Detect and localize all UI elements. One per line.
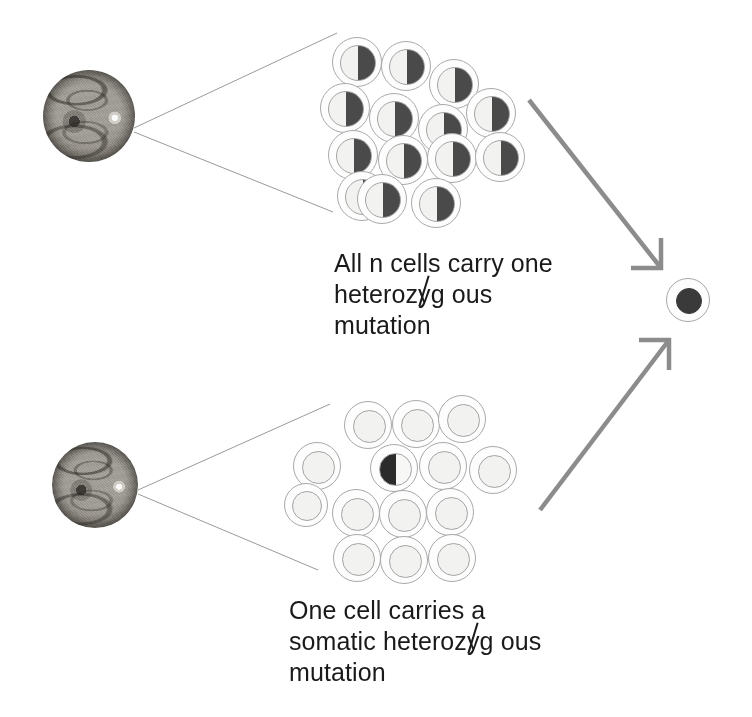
nucleus	[340, 45, 376, 81]
nucleus	[388, 499, 421, 532]
cell-wild-type	[426, 488, 474, 536]
nucleus	[365, 182, 401, 218]
nucleus	[483, 140, 519, 176]
nucleus	[302, 451, 335, 484]
cell-wild-type	[392, 400, 440, 448]
cell-heterozygous	[370, 444, 418, 492]
nucleus	[437, 543, 470, 576]
nucleus	[389, 49, 425, 85]
cell-wild-type	[344, 401, 392, 449]
nucleus	[342, 543, 375, 576]
cell-heterozygous	[357, 174, 407, 224]
nucleus	[377, 101, 413, 137]
cell-heterozygous	[381, 41, 431, 91]
cell-wild-type	[333, 534, 381, 582]
nucleus	[437, 67, 473, 103]
nucleus	[389, 545, 422, 578]
homozygous-tumour-cell	[666, 278, 710, 322]
cell-heterozygous	[320, 83, 370, 133]
cell-wild-type	[284, 483, 328, 527]
nucleus	[428, 451, 461, 484]
cell-wild-type	[379, 490, 427, 538]
retina-fundus-photograph-germline	[43, 70, 135, 162]
caption-line: heterozyg ous	[334, 279, 553, 310]
cell-wild-type	[438, 395, 486, 443]
caption-line: All n cells carry one	[334, 248, 553, 279]
nucleus	[292, 491, 322, 521]
cell-heterozygous	[475, 132, 525, 182]
somatic-caption: One cell carries asomatic heterozyg ousm…	[289, 595, 541, 688]
cell-wild-type	[419, 442, 467, 490]
cell-heterozygous	[411, 178, 461, 228]
nucleus	[328, 91, 364, 127]
struck-glyph: y	[467, 626, 480, 657]
nucleus	[386, 143, 422, 179]
caption-line: One cell carries a	[289, 595, 541, 626]
cell-wild-type	[380, 536, 428, 584]
arrow-head	[639, 340, 669, 370]
nucleus	[435, 497, 468, 530]
leader-line	[134, 132, 333, 212]
nucleus	[401, 409, 434, 442]
leader-line	[134, 33, 337, 128]
cell-heterozygous	[332, 37, 382, 87]
nucleus	[478, 455, 511, 488]
nucleus	[435, 141, 471, 177]
arrow-head	[631, 238, 661, 268]
cell-heterozygous	[427, 133, 477, 183]
arrow-shaft	[540, 340, 669, 510]
caption-line: mutation	[334, 310, 553, 341]
germline-caption: All n cells carry oneheterozyg ousmutati…	[334, 248, 553, 341]
nucleus	[353, 410, 386, 443]
caption-line: somatic heterozyg ous	[289, 626, 541, 657]
cell-wild-type	[332, 489, 380, 537]
arrow-shaft	[529, 100, 661, 268]
struck-glyph: y	[418, 279, 431, 310]
retina-fundus-photograph-somatic	[52, 442, 138, 528]
nucleus	[447, 404, 480, 437]
cell-wild-type	[469, 446, 517, 494]
caption-line: mutation	[289, 657, 541, 688]
nucleus	[379, 453, 412, 486]
nucleus	[419, 186, 455, 222]
nucleus	[474, 96, 510, 132]
nucleus	[676, 288, 702, 314]
nucleus	[336, 138, 372, 174]
nucleus	[341, 498, 374, 531]
cell-heterozygous	[466, 88, 516, 138]
cell-wild-type	[428, 534, 476, 582]
figure-canvas: All n cells carry oneheterozyg ousmutati…	[0, 0, 752, 717]
